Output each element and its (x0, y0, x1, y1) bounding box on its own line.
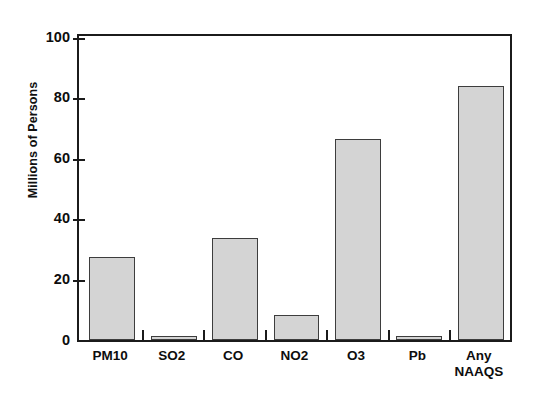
y-axis-tick-mark (73, 38, 85, 40)
x-axis-tick-mark (142, 330, 144, 340)
x-axis-tick-labels: PM10SO2CONO2O3PbAny NAAQS (77, 348, 512, 408)
x-axis-tick-label: Any NAAQS (448, 348, 509, 380)
y-axis-tick-label: 100 (36, 30, 70, 45)
bar (335, 139, 381, 340)
y-axis-tick-label: 20 (36, 272, 70, 287)
bar (151, 336, 197, 340)
bar (89, 257, 135, 340)
y-axis-tick-label: 60 (36, 151, 70, 166)
bar (212, 238, 258, 340)
y-axis-tick-labels: 020406080100 (36, 0, 70, 411)
y-axis-tick-mark (73, 98, 85, 100)
y-axis-tick-mark (73, 219, 85, 221)
bar (274, 315, 320, 340)
x-axis-tick-label: O3 (325, 348, 386, 364)
bar-chart: Millions of Persons 020406080100 PM10SO2… (0, 0, 538, 411)
x-axis-tick-mark (388, 330, 390, 340)
x-axis-tick-label: CO (202, 348, 263, 364)
x-axis-tick-label: Pb (387, 348, 448, 364)
y-axis-tick-mark (73, 159, 85, 161)
x-axis-tick-mark (326, 330, 328, 340)
x-axis-tick-label: NO2 (264, 348, 325, 364)
bar (396, 336, 442, 340)
x-axis-tick-label: SO2 (141, 348, 202, 364)
bar (458, 86, 504, 340)
y-axis-tick-label: 0 (36, 333, 70, 348)
plot-area (77, 34, 512, 342)
x-axis-tick-mark (203, 330, 205, 340)
y-axis-tick-mark (73, 280, 85, 282)
y-axis-tick-label: 80 (36, 90, 70, 105)
x-axis-tick-mark (265, 330, 267, 340)
x-axis-tick-mark (449, 330, 451, 340)
y-axis-tick-label: 40 (36, 211, 70, 226)
x-axis-tick-label: PM10 (80, 348, 141, 364)
